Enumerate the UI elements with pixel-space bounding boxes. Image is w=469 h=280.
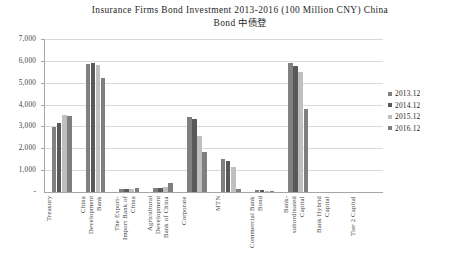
bar-group <box>221 39 241 192</box>
x-axis-tick-label: Tier 2 Capital <box>349 196 383 280</box>
bar <box>91 63 96 192</box>
legend-item-label: 2014.12 <box>395 101 420 110</box>
x-axis-tick-label: Corporate <box>180 196 214 280</box>
legend-swatch-icon <box>388 126 392 130</box>
bar <box>197 136 202 192</box>
bar <box>270 191 275 192</box>
bar <box>255 190 260 192</box>
chart-title-line1: Insurance Firms Bond Investment 2013-201… <box>92 5 388 15</box>
bar <box>260 190 265 192</box>
bar <box>62 115 67 192</box>
legend-item[interactable]: 2015.12 <box>388 111 466 122</box>
y-axis-tick-label: 7,000 <box>19 35 36 43</box>
legend-item-label: 2013.12 <box>395 89 420 98</box>
x-axis-tick-label: Agricultural Development Bank of China <box>146 196 180 280</box>
y-axis-tick-label: - <box>33 188 36 196</box>
bar <box>124 189 129 192</box>
bar-group <box>288 39 308 192</box>
y-axis-tick-label: 5,000 <box>19 79 36 87</box>
x-axis-tick-label: China Development Bank <box>79 196 113 280</box>
bar <box>187 117 192 192</box>
x-axis-tick-label: The Export- Import Bank of China <box>113 196 147 280</box>
legend-swatch-icon <box>388 92 392 96</box>
bar-group <box>322 39 342 192</box>
legend-item[interactable]: 2014.12 <box>388 100 466 111</box>
bar <box>96 65 101 192</box>
x-axis-tick-label: MTN <box>214 196 248 280</box>
bar <box>221 159 226 192</box>
y-axis-tick-label: 6,000 <box>19 57 36 65</box>
bar <box>67 116 72 192</box>
legend-swatch-icon <box>388 103 392 107</box>
bar <box>298 72 303 192</box>
bar <box>135 188 140 192</box>
bar <box>293 66 298 192</box>
bar-group <box>119 39 139 192</box>
legend-swatch-icon <box>388 115 392 119</box>
bar <box>163 187 168 192</box>
y-axis-tick-label: 4,000 <box>19 101 36 109</box>
bar <box>119 189 124 192</box>
legend-item-label: 2016.12 <box>395 124 420 133</box>
bar <box>231 167 236 192</box>
y-axis-tick-label: 2,000 <box>19 144 36 152</box>
x-axis-tick-label: Bank- subordinated Capital <box>282 196 316 280</box>
bar <box>52 127 57 192</box>
bar-group <box>153 39 173 192</box>
bar-group <box>86 39 106 192</box>
bar <box>129 189 134 192</box>
bar-group <box>52 39 72 192</box>
chart-title-line2: Bond 中债登 <box>214 18 267 28</box>
bar <box>304 109 309 192</box>
bar <box>86 64 91 192</box>
y-axis-tick-label: 3,000 <box>19 122 36 130</box>
bar-chart: Insurance Firms Bond Investment 2013-201… <box>0 0 469 280</box>
bar <box>168 183 173 192</box>
x-axis-tick-label: Commercial Bank Bond <box>248 196 282 280</box>
bar <box>101 78 106 192</box>
bars-layer <box>45 39 383 192</box>
bar <box>265 191 270 192</box>
legend-item-label: 2015.12 <box>395 112 420 121</box>
y-axis-tick-label: 1,000 <box>19 166 36 174</box>
legend-item[interactable]: 2013.12 <box>388 88 466 99</box>
x-axis-labels: TreasuryChina Development BankThe Export… <box>45 196 383 280</box>
bar-group <box>356 39 376 192</box>
bar <box>202 152 207 192</box>
y-axis-labels: -1,0002,0003,0004,0005,0006,0007,000 <box>0 39 40 193</box>
bar <box>288 63 293 192</box>
x-axis-tick-label: Treasury <box>45 196 79 280</box>
bar-group <box>187 39 207 192</box>
x-axis-tick-label: Bank Hybrid Capital <box>315 196 349 280</box>
bar <box>226 161 231 192</box>
bar <box>158 188 163 192</box>
chart-legend: 2013.122014.122015.122016.12 <box>388 88 466 134</box>
bar <box>153 188 158 192</box>
chart-title: Insurance Firms Bond Investment 2013-201… <box>40 4 440 30</box>
bar-group <box>255 39 275 192</box>
bar <box>57 123 62 192</box>
bar <box>192 119 197 192</box>
legend-item[interactable]: 2016.12 <box>388 123 466 134</box>
bar <box>236 189 241 192</box>
